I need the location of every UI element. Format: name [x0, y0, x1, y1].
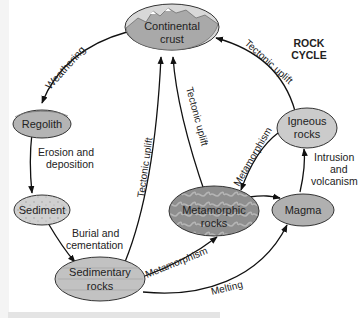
label-sedimentary-rocks-line2: rocks — [87, 280, 114, 292]
label-metamorphic-rocks-line2: rocks — [201, 217, 228, 229]
label-regolith: Regolith — [22, 118, 62, 130]
node-igneous-rocks: Igneous rocks — [277, 108, 337, 148]
arrow-erosion — [30, 133, 32, 193]
label-sediment: Sediment — [19, 204, 65, 216]
label-magma: Magma — [285, 204, 323, 216]
label-intrusion-line3: volcanism — [311, 175, 358, 187]
label-erosion-line1: Erosion and — [38, 146, 94, 158]
label-weathering: Weathering — [43, 43, 88, 91]
label-igneous-rocks-line1: Igneous — [287, 115, 327, 127]
node-sediment: Sediment — [14, 195, 70, 225]
node-continental-crust: Continental crust — [125, 4, 219, 50]
label-continental-crust-line1: Continental — [144, 20, 200, 32]
diagram-canvas: Continental crust Regolith Sediment Sedi… — [0, 0, 363, 318]
label-burial-line1: Burial and — [72, 227, 119, 239]
node-sedimentary-rocks: Sedimentary rocks — [55, 257, 145, 301]
arrow-weathering — [42, 32, 127, 103]
node-magma: Magma — [272, 194, 334, 226]
label-igneous-rocks-line2: rocks — [294, 128, 321, 140]
label-intrusion-line1: Intrusion — [314, 151, 354, 163]
label-continental-crust-line2: crust — [160, 33, 184, 45]
label-metamorphic-rocks-line1: Metamorphic — [182, 204, 246, 216]
arrow-metamorphic-to-magma — [249, 196, 280, 198]
node-regolith: Regolith — [13, 110, 71, 138]
label-metamorphism-igneous: Metamorphism — [231, 125, 274, 188]
label-burial-line2: cementation — [66, 239, 123, 251]
rock-cycle-diagram: Continental crust Regolith Sediment Sedi… — [0, 0, 363, 318]
label-intrusion-line2: and — [330, 163, 348, 175]
diagram-title-line1: ROCK — [294, 37, 325, 49]
label-metamorphism-sedimentary: Metamorphism — [144, 245, 209, 280]
label-tectonic-uplift-sedimentary: Tectonic uplift — [135, 137, 154, 199]
label-melting: Melting — [210, 278, 244, 296]
label-erosion-line2: deposition — [46, 158, 94, 170]
diagram-title-line2: CYCLE — [291, 49, 327, 61]
label-sedimentary-rocks-line1: Sedimentary — [69, 266, 131, 278]
arrow-intrusion — [300, 149, 305, 192]
label-tectonic-uplift-igneous: Tectonic uplift — [243, 37, 296, 86]
node-metamorphic-rocks: Metamorphic rocks — [169, 186, 259, 236]
